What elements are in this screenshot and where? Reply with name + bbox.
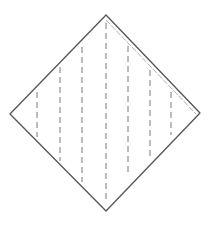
folded-square-diagram xyxy=(0,0,213,227)
inner-fold-edge xyxy=(106,20,196,114)
dashed-fold-lines xyxy=(37,23,171,202)
diagram-canvas: Folded square with dashed fold lines xyxy=(0,0,213,227)
